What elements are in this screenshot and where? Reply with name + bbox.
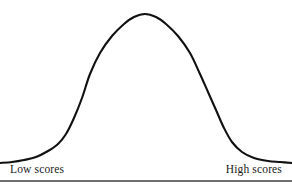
bell-curve-path (0, 14, 292, 163)
distribution-curve (0, 0, 292, 187)
bell-curve-figure: Low scores High scores (0, 0, 292, 187)
baseline-rule (0, 180, 292, 182)
